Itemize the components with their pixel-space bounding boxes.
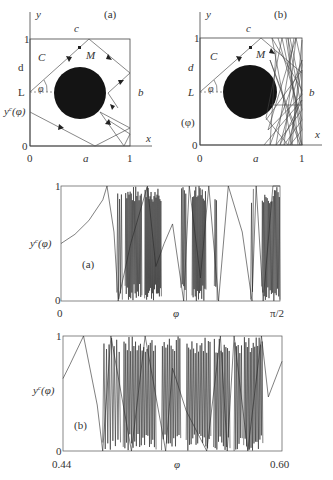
angle-label-phi: φ — [208, 83, 214, 94]
billiard-diagram-b: y (b) c 1 C M d φ L b (φ) 0 x 0 a 1 — [181, 8, 322, 164]
point-label-m: M — [255, 48, 266, 60]
exit-function-chart-b: 1 0 0.44 0.60 φ yc(φ) (b) — [32, 330, 290, 470]
y-tick-1: 1 — [56, 330, 62, 342]
exit-label: (φ) — [181, 116, 195, 129]
x-axis-label: φ — [174, 458, 180, 470]
panel-label: (b) — [74, 419, 87, 432]
figure-canvas: y (a) c 1 C M d φ L b yc(φ) 0 x 0 a 1 — [0, 0, 333, 480]
axis-y-label: y — [205, 8, 211, 20]
circular-scatterer — [54, 67, 106, 119]
tick-y-0: 0 — [192, 139, 198, 151]
angle-arc — [44, 80, 47, 92]
billiard-diagram-a: y (a) c 1 C M d φ L b yc(φ) 0 x 0 a 1 — [3, 8, 152, 164]
edge-label-b: b — [138, 86, 144, 98]
point-label-m: M — [85, 49, 96, 61]
axis-y-label: y — [35, 8, 41, 20]
launch-label-l: L — [18, 86, 25, 98]
x-tick-start: 0.44 — [52, 458, 72, 470]
launch-label-l: L — [187, 86, 194, 98]
point-marker-m — [249, 46, 252, 49]
y-axis-label: yc(φ) — [29, 237, 52, 250]
edge-label-c: c — [74, 22, 79, 34]
axis-x-label: x — [314, 128, 320, 140]
tick-y-1: 1 — [24, 33, 30, 45]
y-tick-0: 0 — [55, 294, 61, 306]
panel-label: (a) — [82, 258, 95, 271]
tick-x-1: 1 — [299, 152, 305, 164]
exit-label: yc(φ) — [3, 105, 26, 118]
y-axis-label: yc(φ) — [32, 384, 55, 397]
edge-label-d: d — [18, 61, 24, 73]
tick-y-0: 0 — [22, 140, 28, 152]
tick-x-0: 0 — [197, 152, 203, 164]
data-series — [61, 186, 280, 301]
edge-label-a: a — [83, 152, 89, 164]
y-tick-1: 1 — [55, 180, 61, 192]
point-marker-m — [78, 46, 81, 49]
x-tick-start: 0 — [57, 307, 63, 319]
y-tick-0: 0 — [56, 445, 62, 457]
arrow-icon — [110, 104, 115, 110]
angle-label-phi: φ — [38, 83, 44, 94]
x-axis-label: φ — [173, 307, 179, 319]
corner-label-c: C — [38, 51, 46, 63]
circular-scatterer — [223, 65, 277, 119]
edge-label-b: b — [309, 86, 315, 98]
tick-x-0: 0 — [27, 152, 33, 164]
data-series — [63, 336, 282, 451]
arrow-icon — [118, 80, 124, 85]
corner-label-c: C — [210, 50, 218, 62]
tick-x-1: 1 — [127, 152, 133, 164]
edge-label-c: c — [246, 22, 251, 34]
exit-function-chart-a: 1 0 0 π/2 φ yc(φ) (a) — [29, 180, 284, 319]
tick-y-1: 1 — [194, 32, 200, 44]
edge-label-a: a — [253, 152, 259, 164]
panel-label-b: (b) — [274, 8, 287, 21]
plot-frame — [61, 186, 280, 301]
x-tick-end: 0.60 — [270, 458, 290, 470]
edge-label-d: d — [188, 61, 194, 73]
axis-x-label: x — [145, 132, 151, 144]
x-tick-end: π/2 — [270, 307, 284, 319]
angle-arc — [214, 80, 217, 92]
panel-label-a: (a) — [104, 8, 117, 21]
